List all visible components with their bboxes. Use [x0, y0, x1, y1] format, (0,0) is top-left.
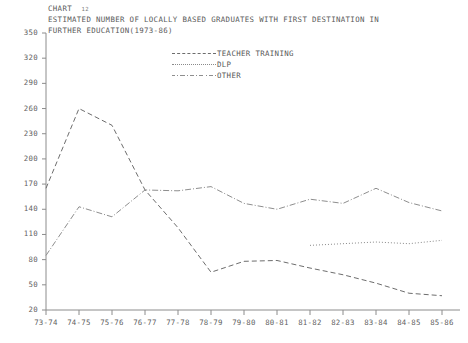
chart-container: CHART 12 ESTIMATED NUMBER OF LOCALLY BAS…: [0, 0, 468, 343]
y-axis-tick-label: 260: [12, 104, 38, 113]
series-line-teacher-training: [46, 109, 442, 296]
y-axis-tick-label: 80: [12, 255, 38, 264]
y-axis-tick-label: 290: [12, 78, 38, 87]
axis-lines: [46, 33, 460, 310]
plot-area: [0, 0, 468, 343]
y-axis-tick-label: 20: [12, 305, 38, 314]
y-axis-tick-label: 140: [12, 204, 38, 213]
series-line-other: [46, 187, 442, 256]
y-axis-tick-label: 110: [12, 229, 38, 238]
x-axis-tick-label: 85-86: [422, 318, 462, 327]
y-axis-tick-label: 50: [12, 280, 38, 289]
series-line-dlp: [310, 240, 442, 245]
y-axis-tick-label: 350: [12, 28, 38, 37]
y-axis-tick-label: 170: [12, 179, 38, 188]
y-axis-ticks: [42, 33, 46, 310]
y-axis-tick-label: 200: [12, 154, 38, 163]
y-axis-tick-label: 320: [12, 53, 38, 62]
data-series-group: [46, 109, 442, 296]
x-axis-ticks: [46, 310, 442, 315]
y-axis-tick-label: 230: [12, 129, 38, 138]
